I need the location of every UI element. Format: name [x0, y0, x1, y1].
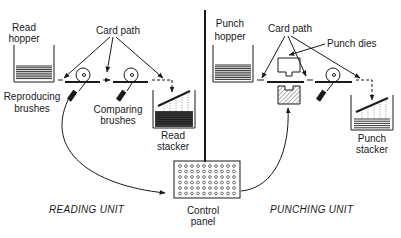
panel-hole: [233, 187, 236, 190]
read-card-track: [58, 80, 172, 92]
panel-hole: [221, 192, 224, 195]
panel-hole: [185, 170, 188, 173]
panel-hole: [227, 187, 230, 190]
panel-hole: [185, 181, 188, 184]
punch-die-lower: [278, 86, 300, 104]
panel-hole: [191, 170, 194, 173]
panel-hole: [227, 170, 230, 173]
panel-hole: [203, 187, 206, 190]
panel-hole: [233, 170, 236, 173]
reproducing-brushes-label-2: brushes: [14, 103, 50, 114]
panel-hole: [215, 187, 218, 190]
read-hopper: Read hopper: [8, 22, 54, 82]
panel-hole: [203, 176, 206, 179]
panel-hole: [227, 176, 230, 179]
control-panel-label-1: Control: [187, 205, 219, 216]
panel-hole: [221, 187, 224, 190]
read-roller-2: [124, 68, 138, 82]
panel-hole: [179, 176, 182, 179]
panel-hole: [209, 192, 212, 195]
punch-roller: [326, 68, 340, 82]
panel-hole: [197, 165, 200, 168]
panel-hole: [227, 181, 230, 184]
panel-hole: [221, 181, 224, 184]
panel-hole: [209, 187, 212, 190]
punch-signal-path: [241, 108, 288, 191]
comparing-brushes-label-1: Comparing: [94, 104, 143, 115]
panel-hole: [185, 192, 188, 195]
control-panel-label-2: panel: [191, 216, 215, 227]
punch-stacker-label-2: stacker: [356, 144, 389, 155]
panel-hole: [179, 165, 182, 168]
panel-hole: [233, 192, 236, 195]
panel-hole: [221, 165, 224, 168]
card-path-label-right: Card path: [268, 23, 312, 34]
card-reproducer-diagram: Read hopper Card path Reproducing brushe…: [0, 0, 401, 238]
panel-hole: [233, 181, 236, 184]
panel-hole: [227, 165, 230, 168]
control-panel: [174, 161, 240, 198]
punch-hopper-label-1: Punch: [216, 18, 244, 29]
panel-hole: [203, 170, 206, 173]
panel-hole: [209, 170, 212, 173]
panel-hole: [197, 170, 200, 173]
reproducing-brush: [67, 83, 85, 102]
panel-hole: [203, 181, 206, 184]
panel-hole: [197, 181, 200, 184]
panel-hole: [179, 181, 182, 184]
panel-hole: [215, 165, 218, 168]
read-stacker: [153, 90, 195, 128]
panel-hole: [215, 170, 218, 173]
read-stacker-label-2: stacker: [157, 141, 190, 152]
panel-hole: [221, 170, 224, 173]
panel-hole: [197, 176, 200, 179]
panel-hole: [215, 181, 218, 184]
reproducing-brushes-label-1: Reproducing: [4, 91, 61, 102]
panel-hole: [185, 176, 188, 179]
panel-hole: [185, 165, 188, 168]
panel-hole: [215, 192, 218, 195]
card-path-label-left: Card path: [96, 25, 140, 36]
panel-hole: [197, 187, 200, 190]
panel-hole: [203, 165, 206, 168]
panel-hole: [191, 192, 194, 195]
card-path-arrows-left: [64, 37, 163, 78]
comparing-brushes-label-2: brushes: [100, 115, 136, 126]
read-hopper-label-2: hopper: [8, 33, 40, 44]
panel-hole: [191, 181, 194, 184]
reading-unit-label: READING UNIT: [49, 204, 125, 215]
panel-hole: [191, 187, 194, 190]
punch-stacker-label-1: Punch: [358, 133, 386, 144]
panel-hole: [233, 176, 236, 179]
panel-hole: [179, 187, 182, 190]
panel-hole: [191, 176, 194, 179]
panel-hole: [209, 176, 212, 179]
panel-hole: [209, 181, 212, 184]
panel-hole: [197, 192, 200, 195]
panel-hole: [203, 192, 206, 195]
punch-hopper-label-2: hopper: [214, 31, 246, 42]
punch-card-track: [257, 80, 372, 100]
panel-hole: [179, 170, 182, 173]
punch-stacker: [351, 95, 393, 130]
panel-hole: [227, 192, 230, 195]
punch-hopper: Punch hopper: [213, 18, 253, 82]
panel-hole: [185, 187, 188, 190]
read-roller-1: [76, 68, 90, 82]
panel-hole: [233, 165, 236, 168]
read-hopper-cards: [16, 66, 52, 79]
panel-hole: [221, 176, 224, 179]
panel-hole: [179, 192, 182, 195]
panel-hole: [215, 176, 218, 179]
punch-dies-label: Punch dies: [327, 38, 376, 49]
panel-hole: [191, 165, 194, 168]
comparing-brush: [116, 83, 132, 102]
punch-die-upper: [278, 58, 300, 76]
punching-unit-label: PUNCHING UNIT: [270, 204, 354, 215]
panel-hole: [209, 165, 212, 168]
read-stacker-label-1: Read: [161, 130, 185, 141]
read-hopper-label-1: Read: [12, 22, 36, 33]
punch-brush: [316, 83, 333, 102]
